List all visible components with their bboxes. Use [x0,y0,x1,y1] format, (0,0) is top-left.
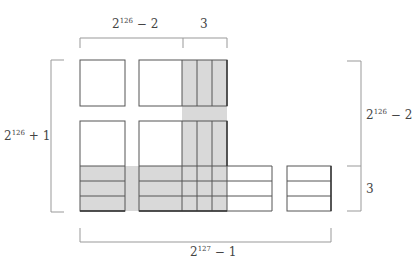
box-far-right [287,166,331,211]
right-bracket [347,61,361,211]
label-left: 2126 + 1 [4,129,50,143]
label-top-right: 3 [200,17,208,31]
top-bracket [80,38,227,48]
label-top-left: 2126 − 2 [112,17,158,31]
label-right-bottom: 3 [366,182,374,196]
label-right-top: 2126 − 2 [366,108,412,122]
horizontal-shaded-band [80,166,227,211]
shaded-regions [80,60,227,211]
box-top-left [80,60,125,106]
left-bracket [51,60,64,212]
label-bottom: 2127 − 1 [190,245,236,259]
bottom-bracket [80,228,331,242]
block-diagram: 2126 − 2 3 2126 + 1 2126 − 2 3 2127 − 1 [0,0,412,269]
